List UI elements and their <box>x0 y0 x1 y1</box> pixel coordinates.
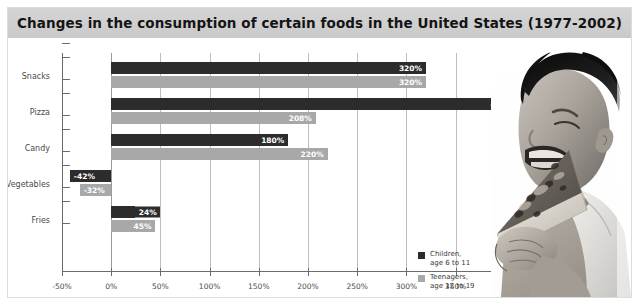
legend-label-teenagers: Teenagers, age 12 to 19 <box>430 273 475 291</box>
legend-label-teenagers-line1: Teenagers, <box>430 273 468 281</box>
chart-canvas: -50%0%50%100%150%200%250%300%350%400%450… <box>8 38 631 297</box>
x-tick-300 <box>406 268 407 276</box>
y-tick-pizza <box>62 93 70 94</box>
category-label-candy: Candy <box>25 144 50 153</box>
y-minor-tick-3 <box>62 151 70 152</box>
x-axis-label-50: 50% <box>152 282 169 291</box>
y-tick-vegetables <box>62 165 70 166</box>
x-axis-label-300: 300% <box>396 282 417 291</box>
boy-eating-pizza-photo <box>491 38 631 297</box>
bar-pizza-teenagers: 208% <box>111 112 316 124</box>
chart-row-fries: Fries24%45% <box>62 205 554 235</box>
bar-fries-teenagers: 45% <box>111 220 155 232</box>
x-tick-200 <box>308 268 309 276</box>
bar-value-label: 24% <box>135 207 160 218</box>
category-label-pizza: Pizza <box>30 108 50 117</box>
bar-value-label: 180% <box>257 135 287 146</box>
x-axis-label-200: 200% <box>297 282 318 291</box>
bar-value-label: 208% <box>285 113 315 124</box>
x-axis-label-0: 0% <box>105 282 117 291</box>
bar-value-label: 45% <box>130 221 155 232</box>
x-tick-150 <box>259 268 260 276</box>
bar-snacks-teenagers: 320% <box>111 76 426 88</box>
category-label-fries: Fries <box>31 216 50 225</box>
y-minor-tick-5 <box>62 223 70 224</box>
x-axis-label-150: 150% <box>248 282 269 291</box>
x-axis-label--50: -50% <box>52 282 71 291</box>
bar-vegetables-children: -42% <box>70 170 111 182</box>
chart-row-candy: Candy180%220% <box>62 133 554 163</box>
x-tick-50 <box>160 268 161 276</box>
legend-swatch-children-icon <box>418 252 425 259</box>
bar-fries-children: 24% <box>111 206 135 218</box>
chart-title-band: Changes in the consumption of certain fo… <box>8 8 631 38</box>
bar-snacks-children: 320% <box>111 62 426 74</box>
y-minor-tick-2 <box>62 115 70 116</box>
bar-pizza-children: 413% <box>111 98 517 110</box>
chart-screenshot: Changes in the consumption of certain fo… <box>0 0 640 306</box>
y-tick-fries <box>62 201 70 202</box>
x-tick-100 <box>210 268 211 276</box>
legend-label-children-line1: Children, <box>430 250 461 258</box>
bar-value-label: -32% <box>80 185 108 196</box>
bar-value-label: 320% <box>395 77 425 88</box>
bar-candy-teenagers: 220% <box>111 148 327 160</box>
chart-row-pizza: Pizza413%208% <box>62 97 554 127</box>
x-tick-0 <box>111 268 112 276</box>
legend-label-children-line2: age 6 to 11 <box>430 259 470 267</box>
legend-label-teenagers-line2: age 12 to 19 <box>430 282 475 290</box>
chart-row-snacks: Snacks320%320% <box>62 61 554 91</box>
y-minor-tick-1 <box>62 79 70 80</box>
category-label-vegetables: Vegetables <box>8 180 50 189</box>
bar-value-label: 320% <box>395 63 425 74</box>
page-title: Changes in the consumption of certain fo… <box>17 15 622 31</box>
y-minor-tick-4 <box>62 187 70 188</box>
bar-candy-children: 180% <box>111 134 288 146</box>
legend-swatch-teenagers-icon <box>418 275 425 282</box>
bar-value-label: 220% <box>296 149 326 160</box>
x-axis-label-250: 250% <box>346 282 367 291</box>
chart-row-vegetables: Vegetables-42%-32% <box>62 169 554 199</box>
bar-value-label: -42% <box>70 171 98 182</box>
bar-vegetables-teenagers: -32% <box>80 184 111 196</box>
legend-label-children: Children, age 6 to 11 <box>430 250 470 268</box>
x-axis-label-100: 100% <box>199 282 220 291</box>
category-label-snacks: Snacks <box>22 72 50 81</box>
plot-area: -50%0%50%100%150%200%250%300%350%400%450… <box>62 53 554 272</box>
y-tick-candy <box>62 129 70 130</box>
x-tick-250 <box>357 268 358 276</box>
y-tick-snacks <box>62 57 70 58</box>
y-minor-tick-0 <box>62 43 70 44</box>
